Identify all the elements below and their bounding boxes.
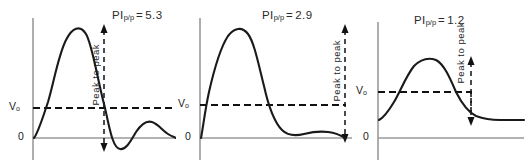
vo-tick-label: Vo [9,100,20,112]
pi-prefix: PI [262,9,274,21]
pi-prefix: PI [112,9,124,21]
perfusion-index-figure: Vo 0 Peak to peak Vo 0 Peak to peak [0,0,528,166]
pi-subscript: p/p [274,13,284,22]
zero-tick-label: 0 [18,130,24,142]
zero-tick-label: 0 [185,130,191,142]
waveform-curve-panel-1 [34,28,176,149]
vo-tick-label: Vo [178,97,189,109]
peak-to-peak-label: Peak to peak [331,40,342,101]
pi-equals: = [436,14,447,26]
pi-equals: = [284,9,295,21]
peak-to-peak-arrow-head-top [342,24,349,33]
pi-prefix: PI [414,14,426,26]
pi-equals: = [134,9,145,21]
pi-value: 5.3 [145,9,162,21]
peak-to-peak-arrow-head-bottom [468,117,475,126]
peak-to-peak-label: Peak to peak [455,22,466,83]
peak-to-peak-arrow-head-top [101,24,108,33]
vo-tick-label: Vo [356,84,367,96]
pi-value: 1.2 [447,14,464,26]
chart-panel-1: Vo 0 Peak to peak [0,0,176,166]
pi-label-panel-1: PIp/p=5.3 [112,9,162,22]
waveform-curve-panel-3 [379,59,524,120]
chart-panel-2: Vo 0 Peak to peak [176,0,352,166]
peak-to-peak-arrow-head-top [468,56,475,65]
peak-to-peak-label: Peak to peak [90,44,101,105]
pi-value: 2.9 [295,9,312,21]
pi-subscript: p/p [426,18,436,27]
peak-to-peak-arrow-head-bottom [101,143,108,152]
waveform-curve-panel-2 [201,29,345,138]
pi-subscript: p/p [124,13,134,22]
pi-label-panel-2: PIp/p=2.9 [262,9,312,22]
pi-label-panel-3: PIp/p=1.2 [414,14,464,27]
zero-tick-label: 0 [363,130,369,142]
